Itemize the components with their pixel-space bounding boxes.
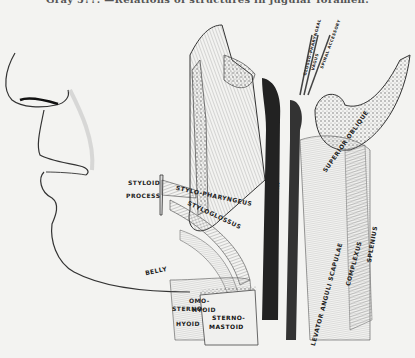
label-sterno-mastoid-1: STERNO- bbox=[212, 315, 245, 321]
internal-jugular-vein bbox=[262, 78, 302, 340]
label-styloid: STYLOID bbox=[128, 180, 160, 186]
label-sterno-1: STERNO- bbox=[172, 306, 205, 312]
label-sterno-mastoid-2: MASTOID bbox=[209, 324, 244, 330]
label-sterno-hyoid: HYOID bbox=[176, 321, 200, 327]
neck-muscles bbox=[300, 136, 372, 340]
anatomical-illustration bbox=[0, 0, 415, 358]
label-process: PROCESS bbox=[126, 193, 161, 199]
label-omo: OMO- bbox=[189, 298, 210, 304]
face-profile bbox=[6, 53, 190, 292]
